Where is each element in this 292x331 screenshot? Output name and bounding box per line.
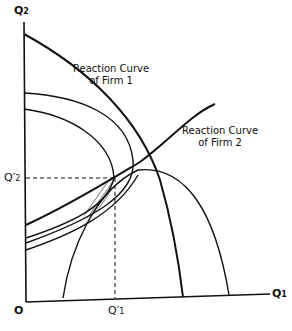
firm1-isoprofit-outer bbox=[24, 93, 133, 243]
firm1-label-line1: Reaction Curve bbox=[73, 63, 149, 75]
firm2-label-line1: Reaction Curve bbox=[182, 125, 258, 137]
q2-prime-label: Q′2 bbox=[4, 171, 20, 184]
x-axis-label-sub: 1 bbox=[281, 290, 287, 299]
y-axis-label-sub: 2 bbox=[23, 7, 29, 16]
q2-prime-text: Q bbox=[4, 171, 13, 184]
x-axis-label: Q1 bbox=[272, 287, 287, 300]
firm2-reaction-curve bbox=[26, 104, 215, 225]
reaction-curve-diagram bbox=[0, 0, 292, 331]
origin-label: O bbox=[14, 304, 23, 317]
firm1-label-line2: of Firm 1 bbox=[73, 75, 149, 87]
x-axis bbox=[26, 294, 270, 302]
shaded-region bbox=[82, 178, 114, 221]
y-axis-label: Q2 bbox=[14, 4, 29, 17]
firm1-curve-label: Reaction Curve of Firm 1 bbox=[73, 63, 149, 87]
q1-prime-sub: 1 bbox=[119, 307, 124, 316]
q2-prime-sub: 2 bbox=[15, 174, 20, 183]
firm1-isoprofit-bottom bbox=[26, 175, 138, 250]
q1-prime-text: Q bbox=[108, 304, 117, 317]
firm2-label-line2: of Firm 2 bbox=[182, 137, 258, 149]
firm2-curve-label: Reaction Curve of Firm 2 bbox=[182, 125, 258, 149]
firm2-isoprofit-outer bbox=[63, 170, 229, 298]
x-axis-label-text: Q bbox=[272, 287, 281, 300]
y-axis bbox=[24, 22, 26, 302]
q1-prime-label: Q′1 bbox=[108, 304, 124, 317]
y-axis-label-text: Q bbox=[14, 4, 23, 17]
